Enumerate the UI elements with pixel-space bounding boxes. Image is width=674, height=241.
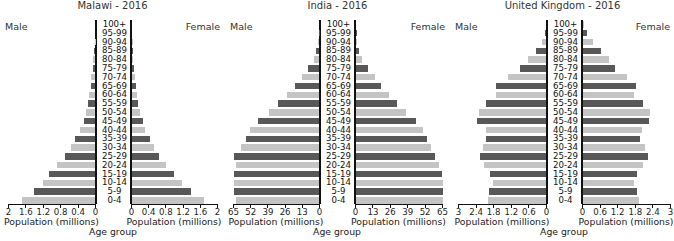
male-bar <box>75 136 95 143</box>
male-bar <box>258 118 319 125</box>
age-group-title: Age group <box>89 226 137 237</box>
female-bar <box>132 180 182 187</box>
female-bar <box>132 100 138 107</box>
male-bar <box>484 162 546 169</box>
male-bar <box>486 127 546 134</box>
female-bar <box>583 136 640 143</box>
female-bar <box>356 162 439 169</box>
male-bar <box>490 171 546 178</box>
male-bar <box>236 197 319 204</box>
female-bar <box>356 153 435 160</box>
male-bar <box>477 118 546 125</box>
male-bar <box>287 92 319 99</box>
female-bar <box>356 127 423 134</box>
male-x-axis-title: Population (millions) <box>4 216 99 227</box>
male-bar <box>94 48 95 55</box>
female-bar <box>356 48 359 55</box>
female-bar <box>356 197 443 204</box>
male-bar <box>479 109 546 116</box>
male-bar <box>241 144 319 151</box>
chart-title: United Kingdom - 2016 <box>450 0 674 11</box>
male-bar <box>250 127 319 134</box>
chart-title: India - 2016 <box>225 0 450 11</box>
female-x-axis-title: Population (millions) <box>127 216 222 227</box>
female-bar <box>132 74 135 81</box>
age-label: 0-4 <box>98 196 131 205</box>
male-label: Male <box>230 21 253 32</box>
male-bar <box>536 48 546 55</box>
female-bar <box>583 153 648 160</box>
male-bar <box>269 109 319 116</box>
chart-title: Malawi - 2016 <box>0 0 225 11</box>
male-bar <box>91 74 95 81</box>
male-label: Male <box>5 21 28 32</box>
male-bar <box>88 100 95 107</box>
female-x-axis <box>131 204 218 205</box>
female-bar <box>356 39 357 46</box>
female-bar <box>583 74 627 81</box>
female-bar <box>356 118 416 125</box>
male-bar <box>302 74 319 81</box>
male-bar <box>234 153 319 160</box>
male-bar <box>496 92 546 99</box>
female-bar <box>132 153 159 160</box>
female-bar <box>356 74 375 81</box>
male-axis-line <box>95 20 97 204</box>
female-bar <box>583 83 636 90</box>
female-bar <box>583 118 649 125</box>
male-bar <box>508 74 546 81</box>
male-x-axis-title: Population (millions) <box>229 216 324 227</box>
female-bar <box>132 144 154 151</box>
female-bar <box>132 127 145 134</box>
female-bar <box>132 65 134 72</box>
female-bar <box>356 100 397 107</box>
male-bar <box>91 83 95 90</box>
female-bar <box>356 188 443 195</box>
male-bar <box>89 92 95 99</box>
male-bar <box>57 162 95 169</box>
female-bar <box>583 65 615 72</box>
male-bar <box>486 136 546 143</box>
female-label: Female <box>186 21 220 32</box>
male-bar <box>528 56 546 63</box>
pyramid-panel-0: Malawi - 2016MaleFemale100+95-9990-9485-… <box>0 0 225 241</box>
male-bar <box>489 188 546 195</box>
female-bar <box>583 197 639 204</box>
male-bar <box>314 56 319 63</box>
age-labels: 100+95-9990-9485-8980-8475-7970-7465-696… <box>549 20 582 205</box>
female-bar <box>356 144 431 151</box>
male-bar <box>316 48 319 55</box>
male-bar <box>236 162 319 169</box>
female-bar <box>132 56 133 63</box>
female-bar <box>132 162 166 169</box>
male-bar <box>488 197 546 204</box>
male-bar <box>84 118 95 125</box>
female-bar <box>356 171 442 178</box>
male-bar <box>545 30 546 37</box>
female-bar <box>132 188 191 195</box>
male-x-axis-title: Population (millions) <box>455 216 550 227</box>
male-bar <box>520 65 546 72</box>
male-bar <box>65 153 95 160</box>
female-x-axis <box>355 204 443 205</box>
age-labels: 100+95-9990-9485-8980-8475-7970-7465-696… <box>322 20 355 205</box>
female-bar <box>132 197 204 204</box>
male-bar <box>496 83 546 90</box>
pyramid-panel-1: India - 2016MaleFemale100+95-9990-9485-8… <box>225 0 450 241</box>
female-bar <box>583 127 642 134</box>
male-bar <box>486 100 546 107</box>
female-bar <box>356 92 389 99</box>
female-bar <box>583 144 645 151</box>
male-bar <box>542 39 546 46</box>
female-bar <box>583 100 643 107</box>
female-bar <box>583 109 650 116</box>
age-label: 0-4 <box>322 196 355 205</box>
male-bar <box>234 171 319 178</box>
male-bar <box>93 56 95 63</box>
male-bar <box>234 180 319 187</box>
female-x-axis-title: Population (millions) <box>579 216 674 227</box>
male-bar <box>49 171 95 178</box>
male-bar <box>318 39 319 46</box>
age-labels: 100+95-9990-9485-8980-8475-7970-7465-696… <box>98 20 131 205</box>
female-bar <box>583 188 637 195</box>
